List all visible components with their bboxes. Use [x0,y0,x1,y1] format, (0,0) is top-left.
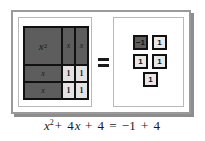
tile-positive-one-c-label: 1 [157,58,161,66]
tile-positive-one-d-label: 1 [148,76,152,84]
tile-positive-one-b-label: 1 [138,58,142,66]
tile-x-vertical-2-label: x [80,42,84,50]
tile-x-horizontal-1-label: x [41,70,45,78]
tile-unit-1-label: 1 [67,70,71,78]
caption-term2-var: x [75,118,81,133]
caption-plus-2: + [84,118,93,133]
tile-negative-one[interactable]: −1 [133,35,148,50]
equals-bar-bottom [98,64,109,67]
caption-rhs-second: 4 [153,118,162,133]
tile-unit-2-label: 1 [80,70,84,78]
tile-positive-one-d[interactable]: 1 [143,72,158,87]
tile-positive-one-a-label: 1 [157,39,161,47]
caption-plus-1: + [54,118,63,133]
tile-unit-4[interactable]: 1 [75,82,88,99]
tile-unit-3-label: 1 [67,87,71,95]
tile-unit-3[interactable]: 1 [62,82,75,99]
tile-positive-one-b[interactable]: 1 [133,54,148,69]
tile-unit-1[interactable]: 1 [62,65,75,82]
tile-x-squared-label: x [39,41,44,52]
caption-plus-3: + [140,118,149,133]
tile-positive-one-c[interactable]: 1 [152,54,167,69]
tile-x-horizontal-2[interactable]: x [24,82,62,99]
tile-x-squared[interactable]: x2 [24,27,62,65]
equals-sign-icon [98,58,109,69]
tile-unit-4-label: 1 [80,87,84,95]
algebra-tiles-figure: x2 x x x 1 1 x 1 1 [0,0,205,141]
caption-equals: = [108,118,117,133]
tile-x-horizontal-2-label: x [41,87,45,95]
caption-term2-coefficient: 4 [66,118,75,133]
tile-negative-one-label: −1 [136,39,145,47]
caption-equation: x2+ 4x + 4 = −1 + 4 [0,118,205,134]
tile-x-vertical-1-label: x [67,42,71,50]
caption-lhs-constant: 4 [96,118,105,133]
tile-unit-2[interactable]: 1 [75,65,88,82]
tile-x-vertical-2[interactable]: x [75,27,88,65]
tile-positive-one-a[interactable]: 1 [152,35,167,50]
algebra-tile-grid: x2 x x x 1 1 x 1 1 [23,26,89,100]
right-unit-tile-cluster: −1 1 1 1 1 [133,35,169,87]
tile-x-horizontal-1[interactable]: x [24,65,62,82]
tile-x-vertical-1[interactable]: x [62,27,75,65]
caption-rhs-first: −1 [121,118,137,133]
